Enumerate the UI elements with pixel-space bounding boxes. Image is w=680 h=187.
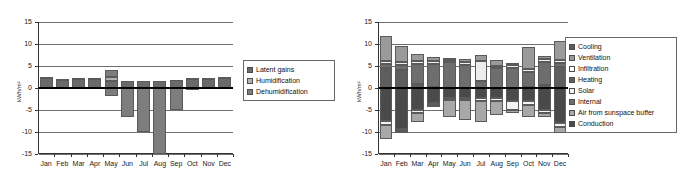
x-tickmark <box>505 154 506 157</box>
legend-swatch-icon <box>247 78 253 84</box>
legend-item[interactable]: Infiltration <box>569 63 673 74</box>
legend-item[interactable]: Heating <box>569 74 673 85</box>
bar-segment <box>506 101 519 109</box>
y-tick-label: 0 <box>16 84 32 91</box>
y-tickmark <box>35 154 38 155</box>
x-tickmark <box>233 154 234 157</box>
bar-segment <box>395 46 408 62</box>
y-tick-label: -5 <box>356 106 372 113</box>
bar-segment <box>538 113 551 117</box>
y-tickmark <box>375 66 378 67</box>
x-tick-label: Dec <box>214 160 236 168</box>
bar-segment <box>427 105 440 107</box>
legend-item[interactable]: Dehumidification <box>247 86 331 97</box>
bar-segment <box>380 61 393 64</box>
bar-segment <box>490 101 503 116</box>
legend-label: Heating <box>578 76 602 84</box>
x-tickmark <box>201 154 202 157</box>
bar-segment <box>380 36 393 61</box>
bar-segment <box>170 88 183 110</box>
legend-label: Latent gains <box>256 66 294 74</box>
legend-label: Infiltration <box>578 65 608 73</box>
legend-item[interactable]: Conduction <box>569 118 673 129</box>
legend-item[interactable]: Ventilation <box>569 52 673 63</box>
x-tick-label: Dec <box>549 160 571 168</box>
legend-label: Ventilation <box>578 54 610 62</box>
bar-segment <box>427 57 440 61</box>
bar-segment <box>72 78 85 80</box>
legend-swatch-icon <box>569 77 575 83</box>
legend-swatch-icon <box>569 99 575 105</box>
y-tickmark <box>375 44 378 45</box>
bar-segment <box>411 88 424 110</box>
x-tickmark <box>489 154 490 157</box>
y-tickmark <box>375 88 378 89</box>
legend-item[interactable]: Cooling <box>569 41 673 52</box>
y-tickmark <box>375 110 378 111</box>
x-tickmark <box>168 154 169 157</box>
y-tickmark <box>35 66 38 67</box>
x-tickmark <box>536 154 537 157</box>
zero-axis-line <box>379 87 568 89</box>
bar-segment <box>506 63 519 65</box>
legend-swatch-icon <box>569 55 575 61</box>
bar-segment <box>522 69 535 73</box>
x-tickmark <box>119 154 120 157</box>
x-tickmark <box>441 154 442 157</box>
y-tickmark <box>375 22 378 23</box>
zero-axis-line <box>39 87 233 89</box>
bar-segment <box>475 88 488 98</box>
y-tick-label: -5 <box>16 106 32 113</box>
x-tickmark <box>521 154 522 157</box>
legend-item[interactable]: Solar <box>569 85 673 96</box>
bar-segment <box>105 77 118 81</box>
bar-segment <box>105 70 118 77</box>
bar-segment <box>380 68 393 88</box>
legend: CoolingVentilationInfiltrationHeatingSol… <box>565 37 677 133</box>
bar-segment <box>443 60 456 63</box>
y-tickmark <box>35 132 38 133</box>
x-tickmark <box>87 154 88 157</box>
x-tickmark <box>394 154 395 157</box>
bar-segment <box>443 88 456 98</box>
bar-segment <box>395 70 408 88</box>
bar-segment <box>538 88 551 110</box>
bar-segment <box>380 88 393 121</box>
bar-segment <box>395 88 408 129</box>
y-tick-label: 15 <box>16 18 32 25</box>
bar-segment <box>380 125 393 138</box>
legend-swatch-icon <box>569 110 575 116</box>
bar-segment <box>490 68 503 88</box>
x-tickmark <box>410 154 411 157</box>
chart-energy-balance: kWh/m²151050-5-10-15JanFebMarAprMayJunJu… <box>340 0 680 187</box>
bar-segment <box>411 113 424 123</box>
x-tickmark <box>136 154 137 157</box>
legend-item[interactable]: Internal <box>569 96 673 107</box>
bar-segment <box>522 88 535 101</box>
y-tick-label: -10 <box>16 128 32 135</box>
bar-segment <box>522 72 535 87</box>
chart-latent-balance: kWh/m²151050-5-10-15JanFebMarAprMayJunJu… <box>0 0 340 187</box>
bar-segment <box>395 62 408 66</box>
x-tickmark <box>568 154 569 157</box>
bar-segment <box>411 61 424 64</box>
bar-segment <box>506 88 519 101</box>
x-tickmark <box>71 154 72 157</box>
bar-segment <box>202 78 215 80</box>
bar-segment <box>459 88 472 98</box>
legend-item[interactable]: Air from sunspace buffer <box>569 107 673 118</box>
x-tickmark <box>457 154 458 157</box>
bar-segment <box>153 88 166 154</box>
x-tickmark <box>217 154 218 157</box>
legend-item[interactable]: Latent gains <box>247 64 331 75</box>
bar-segment <box>395 131 408 133</box>
y-tickmark <box>35 22 38 23</box>
legend-item[interactable]: Humidification <box>247 75 331 86</box>
bar-segment <box>538 56 551 59</box>
bar-segment <box>218 77 231 79</box>
y-tick-label: 15 <box>356 18 372 25</box>
legend-label: Air from sunspace buffer <box>578 109 654 117</box>
y-tick-label: 10 <box>16 40 32 47</box>
bar-segment <box>411 54 424 61</box>
bar-segment <box>475 101 488 122</box>
